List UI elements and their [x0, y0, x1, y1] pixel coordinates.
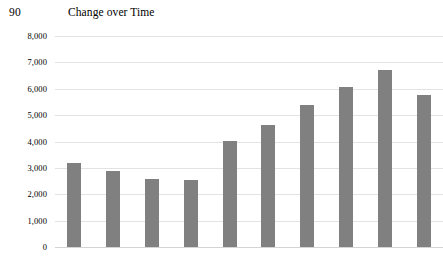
y-tick-label: 4,000 [27, 138, 47, 147]
bars-group [55, 28, 443, 258]
y-axis: 8,000 7,000 6,000 5,000 4,000 3,000 2,00… [0, 28, 55, 258]
y-tick-label: 6,000 [27, 85, 47, 94]
bar [145, 179, 159, 247]
y-tick-label: 3,000 [27, 164, 47, 173]
y-tick-label: 1,000 [27, 217, 47, 226]
y-tick-label: 2,000 [27, 190, 47, 199]
y-tick-label: 7,000 [27, 58, 47, 67]
y-tick-label: 8,000 [27, 32, 47, 41]
bar [378, 70, 392, 247]
bar [261, 125, 275, 247]
bar [339, 87, 353, 247]
figure-header: 90 Change over Time [0, 0, 443, 28]
bar [300, 105, 314, 247]
y-tick-label: 0 [43, 243, 47, 252]
page-title: Change over Time [68, 6, 155, 18]
bar [417, 95, 431, 247]
y-tick-label: 5,000 [27, 111, 47, 120]
bar [223, 141, 237, 247]
bar [67, 163, 81, 247]
bar [184, 180, 198, 247]
plot-area: 8,000 7,000 6,000 5,000 4,000 3,000 2,00… [0, 28, 443, 258]
page-number: 90 [9, 6, 21, 18]
bar [106, 171, 120, 247]
chart-figure: 90 Change over Time 8,000 7,000 6,000 5,… [0, 0, 443, 258]
